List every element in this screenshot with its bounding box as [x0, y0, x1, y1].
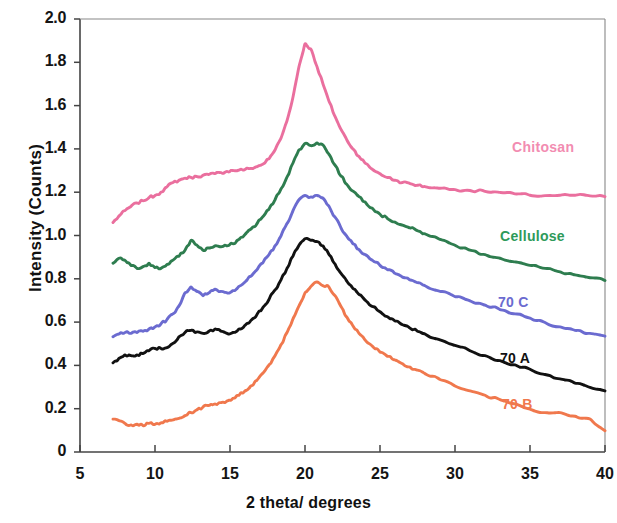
y-tick-label: 1.0 [20, 226, 66, 244]
series-label-cellulose: Cellulose [500, 228, 565, 244]
y-tick-label: 0.6 [20, 312, 66, 330]
x-tick-label: 15 [210, 465, 250, 483]
x-tick-label: 25 [360, 465, 400, 483]
series-label-70-a: 70 A [500, 350, 530, 366]
x-tick-label: 40 [585, 465, 617, 483]
y-tick-label: 1.8 [20, 52, 66, 70]
y-tick-label: 1.2 [20, 182, 66, 200]
xrd-chart-figure: Intensity (Counts) 2 theta/ degrees 2.01… [0, 0, 617, 523]
x-tick-label: 5 [60, 465, 100, 483]
series-label-70-c: 70 C [498, 294, 529, 310]
x-tick-label: 35 [510, 465, 550, 483]
x-tick-label: 30 [435, 465, 475, 483]
y-tick-label: 0.2 [20, 399, 66, 417]
y-tick-label: 0.8 [20, 269, 66, 287]
series-label-chitosan: Chitosan [512, 139, 574, 155]
y-axis-title: Intensity (Counts) [26, 88, 46, 348]
series-label-70-b: 70 B [502, 396, 533, 412]
y-tick-label: 0 [20, 442, 66, 460]
series-curve-70-a [113, 238, 605, 391]
y-tick-label: 0.4 [20, 355, 66, 373]
series-curve-cellulose [113, 143, 605, 281]
x-tick-label: 20 [285, 465, 325, 483]
x-tick-label: 10 [135, 465, 175, 483]
y-tick-label: 1.4 [20, 139, 66, 157]
y-tick-label: 2.0 [20, 9, 66, 27]
y-tick-label: 1.6 [20, 96, 66, 114]
x-axis-title: 2 theta/ degrees [0, 494, 617, 512]
plot-canvas [0, 0, 617, 523]
